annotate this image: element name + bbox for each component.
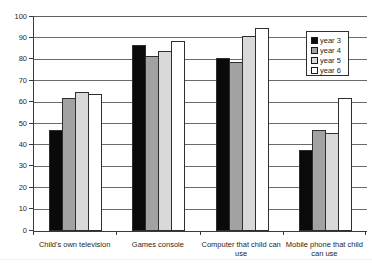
y-tick-label-10: 10: [0, 204, 27, 213]
bar-year-4-2: [145, 56, 159, 231]
x-category-label-1: Child's own television: [30, 241, 120, 250]
x-tick-mark-0: [33, 231, 34, 235]
bar-year-6-3: [255, 28, 269, 231]
legend-item-year-3: year 3: [311, 35, 348, 45]
bar-year-3-3: [216, 58, 230, 231]
bar-year-4-4: [312, 130, 326, 231]
x-category-label-2: Games console: [113, 241, 203, 250]
bar-chart-figure: 0102030405060708090100 Child's own telev…: [0, 0, 372, 268]
bar-year-3-2: [132, 45, 146, 231]
bar-group-2: [117, 17, 200, 231]
bar-year-5-1: [75, 92, 89, 231]
y-tick-label-0: 0: [0, 226, 27, 235]
bar-year-6-4: [338, 98, 352, 231]
bar-year-6-2: [171, 41, 185, 231]
legend-item-year-5: year 5: [311, 55, 348, 65]
y-tick-label-60: 60: [0, 97, 27, 106]
legend-item-year-4: year 4: [311, 45, 348, 55]
bar-year-4-3: [229, 62, 243, 231]
scan-artifact-line: [0, 259, 372, 260]
bar-year-3-1: [49, 130, 63, 231]
y-tick-label-70: 70: [0, 76, 27, 85]
bar-year-5-2: [158, 51, 172, 231]
legend-swatch-icon: [311, 67, 318, 74]
legend-label: year 3: [320, 36, 341, 45]
y-tick-label-30: 30: [0, 161, 27, 170]
x-tick-mark-3: [283, 231, 284, 235]
bar-group-3: [201, 17, 284, 231]
x-tick-mark-4: [365, 231, 366, 235]
legend-swatch-icon: [311, 57, 318, 64]
bar-year-5-4: [325, 133, 339, 231]
legend: year 3year 4year 5year 6: [306, 31, 349, 76]
x-tick-mark-1: [116, 231, 117, 235]
legend-label: year 5: [320, 56, 341, 65]
y-tick-label-50: 50: [0, 119, 27, 128]
x-category-label-4: Mobile phone that child can use: [279, 241, 369, 258]
legend-swatch-icon: [311, 47, 318, 54]
bar-year-5-3: [242, 36, 256, 231]
legend-label: year 4: [320, 46, 341, 55]
bar-year-3-4: [299, 150, 313, 231]
y-tick-label-20: 20: [0, 183, 27, 192]
y-tick-label-40: 40: [0, 140, 27, 149]
x-category-label-3: Computer that child can use: [196, 241, 286, 258]
y-tick-label-100: 100: [0, 12, 27, 21]
legend-swatch-icon: [311, 37, 318, 44]
y-tick-label-90: 90: [0, 33, 27, 42]
bar-group-1: [34, 17, 117, 231]
legend-label: year 6: [320, 66, 341, 75]
bar-year-4-1: [62, 98, 76, 231]
bar-year-6-1: [88, 94, 102, 231]
legend-item-year-6: year 6: [311, 65, 348, 75]
y-tick-label-80: 80: [0, 54, 27, 63]
x-tick-mark-2: [200, 231, 201, 235]
